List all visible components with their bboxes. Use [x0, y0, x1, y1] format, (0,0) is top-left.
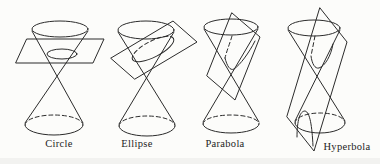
cone-base-front-arc	[119, 126, 175, 136]
intersection-hyperbola-upper-branch	[311, 44, 333, 68]
cone-base-back-arc	[203, 115, 259, 124]
intersection-ellipse-front-arc	[133, 39, 178, 67]
cone-base-back-arc	[25, 115, 83, 125]
figure-parabola: Parabola	[203, 13, 260, 149]
figure-label: Parabola	[205, 138, 244, 149]
cone-edge	[203, 29, 258, 122]
cone-base-back-arc	[119, 116, 175, 126]
cutting-plane-steep-icon	[207, 13, 260, 100]
figure-label: Ellipse	[121, 138, 152, 149]
cone-base-front-arc	[203, 124, 259, 133]
cone-edge	[119, 32, 174, 124]
figure-ellipse: Ellipse	[111, 21, 197, 149]
cone-edge	[204, 29, 259, 122]
diagram-canvas: Circle Ellipse Parabola	[0, 0, 380, 164]
intersection-hyperbola-hidden-arc	[311, 36, 315, 56]
cone-base-front-arc	[25, 125, 83, 135]
intersection-ellipse-curve	[129, 31, 177, 66]
figure-hyperbola: Hyperbola	[287, 8, 371, 152]
conic-sections-diagram: Circle Ellipse Parabola	[0, 0, 380, 164]
cone-edge	[25, 31, 88, 123]
figure-label: Circle	[45, 138, 72, 149]
scan-artifact-band	[0, 158, 380, 164]
cutting-plane-tilted-icon	[111, 21, 197, 79]
figure-circle: Circle	[16, 21, 104, 149]
figure-label: Hyperbola	[323, 141, 370, 152]
cone-top-opening	[204, 19, 258, 35]
intersection-parabola-hidden-arc	[225, 36, 232, 58]
cone-top-opening	[32, 21, 88, 37]
intersection-parabola-curve	[225, 41, 255, 69]
cone-edge	[32, 31, 83, 123]
cone-base-back-arc	[295, 113, 345, 123]
